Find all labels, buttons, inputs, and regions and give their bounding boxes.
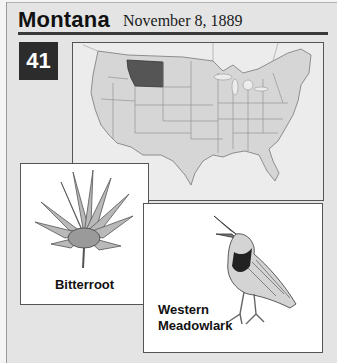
state-bird-panel: Western Meadowlark <box>143 203 323 353</box>
state-bird-label: Western Meadowlark <box>158 302 232 334</box>
state-flower-label: Bitterroot <box>21 277 148 292</box>
state-bird-label-line2: Meadowlark <box>158 318 232 334</box>
state-flower-panel: Bitterroot <box>20 163 149 305</box>
state-name-heading: Montana <box>18 7 110 33</box>
statehood-date: November 8, 1889 <box>123 12 243 30</box>
state-order-number: 41 <box>26 48 50 73</box>
header-divider <box>18 32 328 35</box>
bitterroot-flower-icon <box>21 164 148 274</box>
state-order-badge: 41 <box>19 42 58 80</box>
state-bird-label-line1: Western <box>158 302 232 318</box>
